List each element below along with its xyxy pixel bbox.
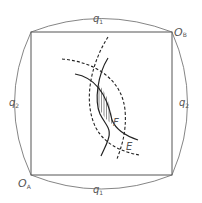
bottom-arc xyxy=(31,175,172,189)
dashed-curve-inner xyxy=(62,59,125,159)
label-q1-bottom: q1 xyxy=(93,184,103,196)
label-point-f: F xyxy=(113,117,119,128)
label-origin-a: OA xyxy=(18,177,32,190)
edgeworth-box-diagram: q1 q1 q2 q2 OA OB F E xyxy=(0,0,202,203)
label-q1-top: q1 xyxy=(93,13,103,25)
label-point-e: E xyxy=(126,141,133,152)
label-origin-b: OB xyxy=(174,26,187,39)
solid-curve-2 xyxy=(97,58,109,156)
label-q2-left: q2 xyxy=(9,97,19,109)
